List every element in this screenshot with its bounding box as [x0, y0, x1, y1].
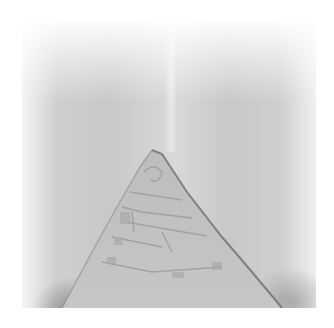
tissue-photograph	[22, 22, 316, 308]
triangular-exposed-region	[22, 22, 316, 308]
